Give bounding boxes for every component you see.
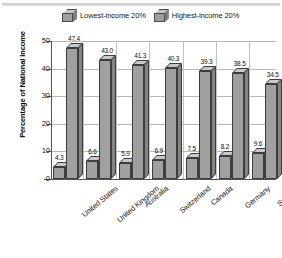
bar-value-label: 7.5 — [188, 145, 196, 152]
legend-item-lowest-income: Lowest-income 20% — [62, 9, 146, 22]
bar-group: 6.643.0 — [86, 41, 119, 179]
bar-front-face — [99, 60, 111, 179]
bar-value-label: 38.5 — [234, 60, 246, 67]
bar-front-face — [199, 71, 211, 179]
bar-lowest-income — [152, 160, 164, 179]
bar-side-face — [78, 43, 83, 179]
top-divider — [2, 3, 280, 6]
bar-value-label: 5.9 — [121, 150, 129, 157]
chart-legend: Lowest-income 20% Highest-income 20% — [62, 9, 239, 22]
bar-value-label: 41.3 — [134, 52, 146, 59]
bar-highest-income — [165, 68, 177, 179]
x-axis-line — [44, 179, 276, 180]
legend-swatch-icon — [154, 9, 169, 22]
bar-front-face — [152, 160, 164, 179]
bar-group: 6.940.3 — [152, 41, 185, 179]
bar-highest-income — [66, 48, 78, 179]
bar-value-label: 47.4 — [68, 35, 80, 42]
bar-highest-income — [99, 60, 111, 179]
category-label: Canada — [209, 184, 234, 207]
legend-item-highest-income: Highest-income 20% — [154, 9, 239, 22]
bar-side-face — [177, 63, 182, 179]
bar-value-label: 8.2 — [221, 143, 229, 150]
bar-side-face — [111, 55, 116, 179]
bar-highest-income — [232, 73, 244, 179]
bar-side-face — [144, 60, 149, 179]
bar-value-label: 39.3 — [201, 58, 213, 65]
chart-figure: Lowest-income 20% Highest-income 20% Per… — [0, 0, 282, 258]
bar-highest-income — [265, 84, 277, 179]
legend-swatch-icon — [62, 9, 77, 22]
bar-group: 7.539.3 — [186, 41, 219, 179]
bar-group: 9.634.5 — [252, 41, 282, 179]
bar-value-label: 6.6 — [88, 148, 96, 155]
bar-front-face — [66, 48, 78, 179]
bar-value-label: 6.9 — [154, 147, 162, 154]
bar-side-face — [277, 79, 282, 179]
category-label: Sweden — [275, 184, 282, 208]
bar-front-face — [265, 84, 277, 179]
bar-group: 8.238.5 — [219, 41, 252, 179]
bars-layer: 4.347.46.643.05.941.36.940.37.539.38.238… — [44, 41, 276, 179]
bar-front-face — [165, 68, 177, 179]
bar-lowest-income — [252, 153, 264, 179]
bar-front-face — [53, 167, 65, 179]
x-axis-category-labels: United StatesUnited KingdomAustraliaSwit… — [44, 182, 276, 254]
bar-lowest-income — [219, 156, 231, 179]
bar-value-label: 34.5 — [267, 71, 279, 78]
bar-group: 4.347.4 — [53, 41, 86, 179]
bar-front-face — [252, 153, 264, 179]
bar-lowest-income — [119, 163, 131, 179]
bar-value-label: 40.3 — [167, 55, 179, 62]
y-axis-title: Percentage of National Income — [18, 15, 27, 155]
category-label: Switzerland — [178, 184, 213, 215]
plot-area: 01020304050 4.347.46.643.05.941.36.940.3… — [44, 41, 276, 185]
bar-lowest-income — [86, 161, 98, 179]
category-label: United States — [80, 184, 119, 219]
category-label: Germany — [243, 184, 272, 210]
bar-front-face — [186, 158, 198, 179]
bar-lowest-income — [186, 158, 198, 179]
bar-front-face — [119, 163, 131, 179]
legend-label-highest-income: Highest-income 20% — [172, 11, 239, 20]
bar-highest-income — [132, 65, 144, 179]
bar-side-face — [244, 68, 249, 179]
bar-value-label: 43.0 — [101, 47, 113, 54]
bar-front-face — [132, 65, 144, 179]
bar-highest-income — [199, 71, 211, 179]
bar-front-face — [219, 156, 231, 179]
bar-side-face — [211, 66, 216, 179]
legend-label-lowest-income: Lowest-income 20% — [80, 11, 146, 20]
bar-value-label: 4.3 — [55, 154, 63, 161]
bar-front-face — [232, 73, 244, 179]
bar-group: 5.941.3 — [119, 41, 152, 179]
bar-value-label: 9.6 — [254, 140, 262, 147]
bar-front-face — [86, 161, 98, 179]
bar-lowest-income — [53, 167, 65, 179]
